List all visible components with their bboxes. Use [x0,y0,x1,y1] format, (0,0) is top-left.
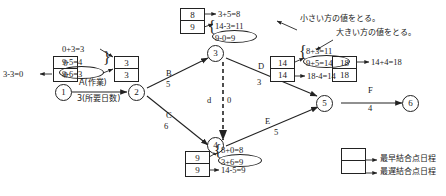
legend-cell-latest [342,161,365,173]
annotation-larger: 大きい方の値をとる。 [336,28,416,38]
calc-node3-earliest: 3+5=8 [218,9,240,19]
edge-F-duration: 4 [368,103,372,113]
edge-label-C: C [166,111,172,120]
brace-node2: } [103,50,111,66]
node-6-latest: 18 [333,69,356,81]
edge-duration-C: 6 [164,122,168,131]
node-3-earliest: 8 [181,9,204,21]
value-box-node-3: 8 9 [180,8,205,34]
brace-node5: { [299,44,307,60]
node-6-earliest: 18 [333,57,356,69]
edge-E-duration: 5 [274,127,278,137]
node-2-latest: 3 [115,69,138,81]
edge-D-name: D [258,61,264,71]
calc-node2-earliest: 0+3=3 [62,44,84,54]
calc-node2-latest-b: 9-6=3 [62,69,82,79]
callout-node2-latest [103,69,113,73]
calc-node5-earliest-a: 8+3=11 [306,46,332,56]
node-6-label: 6 [408,98,413,108]
edge-duration-F: 4 [368,104,372,113]
value-box-node-4: 9 9 [185,151,210,177]
edge-label-d: d [207,96,211,105]
brace-node3: { [208,19,216,35]
calc-node1-latest: 3-3=0 [3,69,23,79]
edge-duration-E: 5 [274,128,278,137]
edge-C-name: C [166,110,172,120]
calc-node6-earliest: 14+4=18 [371,57,402,67]
node-1[interactable]: 1 [55,84,72,101]
edge-B [147,58,208,88]
calc-node5-latest: 18-4=14 [307,71,336,81]
edge-label-E: E [265,117,270,126]
edge-E [226,107,318,146]
edge-d-duration: 0 [227,95,231,105]
edge-D-duration: 3 [257,77,261,87]
edge-duration-d: 0 [227,96,231,105]
edge-duration-A: 3(所要日数) [77,94,120,103]
node-5-label: 5 [322,98,327,108]
node-4-earliest: 9 [186,152,209,164]
value-box-node-2: 3 3 [114,56,139,82]
legend-box [341,148,366,174]
edge-A-duration: 3(所要日数) [77,94,120,103]
edge-A-name: A(作業) [79,78,107,87]
edge-F-name: F [368,85,373,95]
edge-C-duration: 6 [164,121,168,131]
edge-label-F: F [368,86,373,95]
node-2[interactable]: 2 [128,84,145,101]
legend-label-earliest: 最早結合点日程 [380,154,436,164]
node-5-latest: 14 [271,69,294,81]
calc-node3-latest-a: 14-3=11 [215,21,244,31]
node-1-label: 1 [61,87,66,97]
value-box-node-5: 14 14 [270,56,295,82]
edge-duration-B: 5 [166,80,170,89]
node-6[interactable]: 6 [402,95,419,112]
node-5-earliest: 14 [271,57,294,69]
edge-duration-D: 3 [257,78,261,87]
edge-B-name: B [166,68,172,78]
edge-E-name: E [265,116,270,126]
node-3-latest: 9 [181,21,204,33]
node-2-earliest: 3 [115,57,138,69]
edge-label-B: B [166,69,172,78]
network-diagram-canvas: 1 2 3 4 5 6 A(作業) 3(所要日数) B 5 C 6 D 3 E … [0,0,446,196]
brace-node4: { [214,143,222,159]
calc-node4-earliest-a: 8+0=8 [221,145,243,155]
edge-label-A: A(作業) [79,78,107,87]
calc-node5-earliest-b: 9+5=14 [306,58,333,68]
calc-node3-latest-b: 9-0=9 [215,33,235,43]
calc-node4-latest: 14-5=9 [221,165,246,175]
node-3[interactable]: 3 [207,45,224,62]
node-2-label: 2 [134,87,139,97]
node-4-latest: 9 [186,164,209,176]
edge-B-duration: 5 [166,79,170,89]
node-3-label: 3 [213,48,218,58]
edge-C [147,96,208,145]
legend-cell-earliest [342,149,365,161]
node-5[interactable]: 5 [316,95,333,112]
edge-label-D: D [258,62,264,71]
edge-d-name: d [207,95,211,105]
legend-label-latest: 最遅結合点日程 [380,167,436,177]
annotation-smaller-pointer [277,21,297,30]
calc-node2-latest-a: 9-5=4 [62,57,82,67]
annotation-smaller: 小さい方の値をとる。 [300,14,380,24]
